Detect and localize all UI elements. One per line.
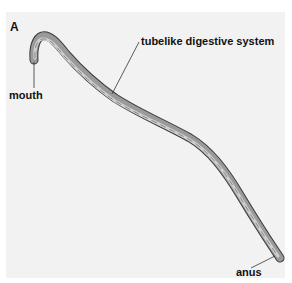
digestive-tract: [35, 39, 278, 256]
anus-label: anus: [236, 266, 262, 278]
panel-letter: A: [10, 20, 19, 34]
digestive-system-label: tubelike digestive system: [141, 35, 274, 47]
digestive-leader-line: [112, 42, 139, 94]
mouth-label: mouth: [9, 89, 43, 101]
worm-body: [34, 36, 280, 258]
